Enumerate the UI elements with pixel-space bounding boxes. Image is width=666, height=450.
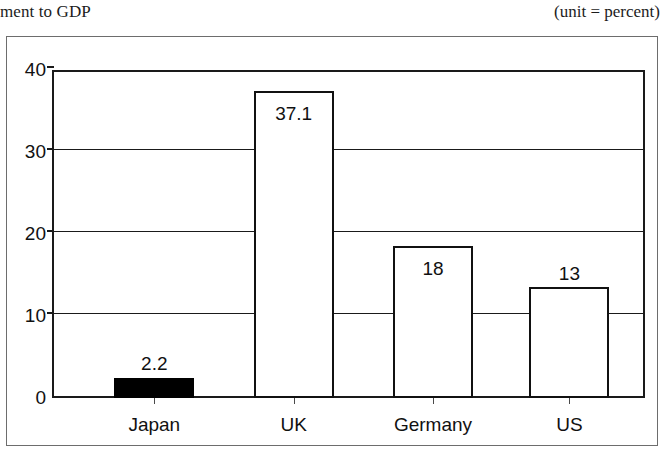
bar-value-label: 18 xyxy=(395,258,471,280)
y-tick-mark xyxy=(47,66,54,68)
chart-caption-row: ment to GDP (unit = percent) xyxy=(0,0,666,30)
x-axis-label-japan: Japan xyxy=(114,414,194,436)
y-tick-label: 10 xyxy=(2,305,46,327)
bar-value-label: 37.1 xyxy=(256,103,332,125)
bar-japan: 2.2 xyxy=(114,378,194,399)
y-tick-label: 40 xyxy=(2,59,46,81)
bar-germany: 18 xyxy=(393,246,473,398)
x-axis-label-us: US xyxy=(529,414,609,436)
bars-layer: 2.237.11813 xyxy=(52,70,645,398)
x-axis-label-germany: Germany xyxy=(393,414,473,436)
chart-screenshot: ment to GDP (unit = percent) 010203040 2… xyxy=(0,0,666,450)
plot-area: 2.237.11813 xyxy=(52,70,645,398)
unit-note: (unit = percent) xyxy=(554,2,660,22)
bar-value-label: 13 xyxy=(531,263,607,285)
y-axis: 010203040 xyxy=(0,70,46,398)
bar-value-label: 2.2 xyxy=(115,353,193,375)
bar-us: 13 xyxy=(529,287,609,398)
x-axis-labels: JapanUKGermanyUS xyxy=(52,404,645,444)
y-tick-label: 30 xyxy=(2,141,46,163)
bar-uk: 37.1 xyxy=(254,91,334,398)
x-axis-label-uk: UK xyxy=(254,414,334,436)
y-tick-label: 20 xyxy=(2,223,46,245)
y-tick-label: 0 xyxy=(2,387,46,409)
page-title: ment to GDP xyxy=(0,2,91,22)
